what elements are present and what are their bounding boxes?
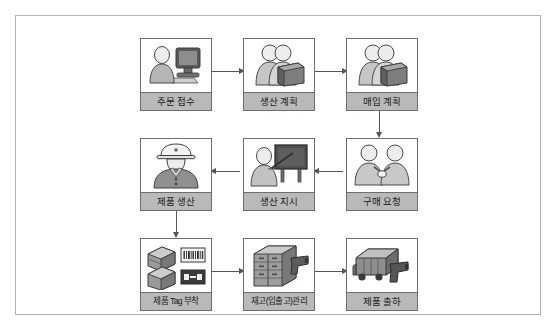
connector-production-to-tag xyxy=(176,208,177,234)
diagram-canvas: 주문 접수 생산 계획 xyxy=(0,0,559,333)
node-product-tagging[interactable]: 제품 Tag 부착 xyxy=(140,238,212,311)
connector-purchase-to-request xyxy=(379,108,380,134)
truck-scanner-icon xyxy=(347,239,417,292)
node-label-product-production: 제품 생산 xyxy=(141,192,211,210)
node-label-product-tagging: 제품 Tag 부착 xyxy=(141,292,211,310)
connector-inventory-to-ship xyxy=(315,271,343,272)
node-label-order-receipt: 주문 접수 xyxy=(141,92,211,110)
connector-plan-to-purchase xyxy=(315,71,343,72)
connector-order-to-production xyxy=(212,171,240,172)
node-label-production-order: 생산 지시 xyxy=(244,192,314,210)
node-purchase-request[interactable]: 구매 요청 xyxy=(346,138,418,211)
warehouse-scanner-icon xyxy=(244,239,314,292)
two-people-with-box-icon xyxy=(347,39,417,92)
connector-tag-to-inventory xyxy=(212,271,240,272)
two-people-handshake-icon xyxy=(347,139,417,192)
node-label-inventory-mgmt: 재고(입출고)관리 xyxy=(244,292,314,310)
boxes-with-tags-icon xyxy=(141,239,211,292)
node-product-shipment[interactable]: 제품 출하 xyxy=(346,238,418,311)
node-label-production-plan: 생산 계획 xyxy=(244,92,314,110)
node-production-order[interactable]: 생산 지시 xyxy=(243,138,315,211)
worker-hardhat-icon xyxy=(141,139,211,192)
node-inventory-mgmt[interactable]: 재고(입출고)관리 xyxy=(243,238,315,311)
node-purchase-plan[interactable]: 매입 계획 xyxy=(346,38,418,111)
two-people-with-box-icon xyxy=(244,39,314,92)
person-at-board-icon xyxy=(244,139,314,192)
connector-request-to-order xyxy=(315,171,343,172)
node-product-production[interactable]: 제품 생산 xyxy=(140,138,212,211)
node-label-purchase-plan: 매입 계획 xyxy=(347,92,417,110)
connector-order-to-plan xyxy=(212,71,240,72)
node-production-plan[interactable]: 생산 계획 xyxy=(243,38,315,111)
diagram-frame: 주문 접수 생산 계획 xyxy=(15,15,541,315)
person-at-computer-icon xyxy=(141,39,211,92)
node-label-product-shipment: 제품 출하 xyxy=(347,292,417,310)
node-label-purchase-request: 구매 요청 xyxy=(347,192,417,210)
node-order-receipt[interactable]: 주문 접수 xyxy=(140,38,212,111)
